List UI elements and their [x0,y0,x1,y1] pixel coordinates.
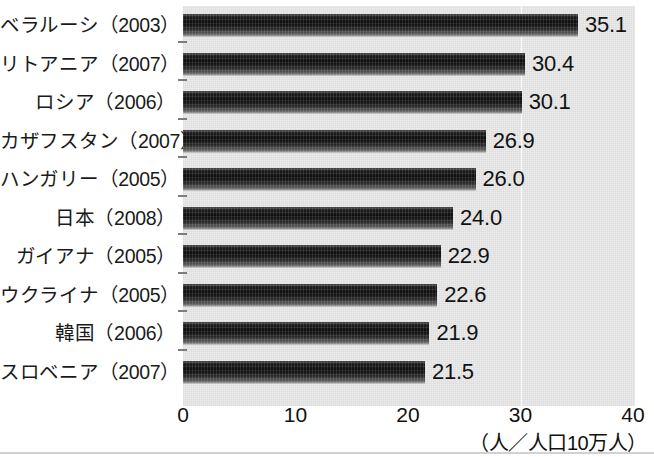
bar [183,168,476,190]
x-tick-label: 30 [509,403,532,427]
x-tick-label: 20 [396,403,419,427]
bar-value-label: 22.6 [444,282,486,308]
bar-value-label: 35.1 [585,12,627,38]
bar-row: ベラルーシ（2003）35.1 [0,6,654,45]
bar [183,284,437,306]
category-label: 韓国（2006） [0,314,176,353]
bar [183,130,486,152]
axis-tick-stub [178,79,187,81]
bar [183,14,578,36]
bar-value-label: 22.9 [448,243,490,269]
bar [183,245,441,267]
axis-tick-stub [178,195,187,197]
bottom-divider [0,452,654,454]
bar [183,91,522,113]
bar-chart: ベラルーシ（2003）35.1リトアニア（2007）30.4ロシア（2006）3… [0,0,654,457]
bar [183,322,429,344]
bar-row: カザフスタン（2007）26.9 [0,122,654,161]
bar-row: 韓国（2006）21.9 [0,314,654,353]
bar-row: ガイアナ（2005）22.9 [0,237,654,276]
bar-row: ロシア（2006）30.1 [0,83,654,122]
bar-value-label: 30.4 [532,51,574,77]
x-tick-label: 40 [621,403,644,427]
axis-tick-stub [178,310,187,312]
bar [183,207,453,229]
category-label: リトアニア（2007） [0,45,176,84]
category-label: ハンガリー（2005） [0,160,176,199]
x-tick-label: 0 [177,403,189,427]
category-label: カザフスタン（2007） [0,122,176,161]
bar-value-label: 26.0 [483,166,525,192]
axis-tick-stub [178,118,187,120]
bar [183,53,525,75]
bar-row: スロベニア（2007）21.5 [0,353,654,392]
bar-value-label: 21.5 [432,359,474,385]
bar-value-label: 30.1 [529,89,571,115]
category-label: ガイアナ（2005） [0,237,176,276]
bar-row: 日本（2008）24.0 [0,199,654,238]
category-label: ウクライナ（2005） [0,276,176,315]
category-label: ロシア（2006） [0,83,176,122]
axis-tick-stub [178,233,187,235]
category-label: スロベニア（2007） [0,353,176,392]
bar-value-label: 26.9 [493,128,535,154]
axis-tick-stub [178,349,187,351]
axis-tick-stub [178,156,187,158]
axis-tick-stub [178,272,187,274]
bar-row: ウクライナ（2005）22.6 [0,276,654,315]
bar-row: ハンガリー（2005）26.0 [0,160,654,199]
category-label: 日本（2008） [0,199,176,238]
bar [183,361,425,383]
category-label: ベラルーシ（2003） [0,6,176,45]
bar-value-label: 24.0 [460,205,502,231]
bar-value-label: 21.9 [436,320,478,346]
x-tick-label: 10 [284,403,307,427]
bar-row: リトアニア（2007）30.4 [0,45,654,84]
axis-tick-stub [178,41,187,43]
